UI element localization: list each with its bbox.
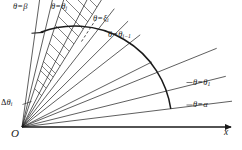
- label-theta-equals-xi-i: θ=ξi: [93, 14, 109, 24]
- label-theta-equals-theta-1: θ=θ1: [193, 78, 210, 88]
- label-delta-sub: i: [11, 101, 13, 107]
- label-xi-sub: i: [107, 17, 109, 23]
- label-beta-value: β: [23, 1, 27, 11]
- label-theta-equals-beta: θ=β: [13, 2, 28, 11]
- ray-theta-j-plus: [22, 0, 56, 127]
- label-theta-equals-theta-j: θ=θj: [51, 2, 67, 12]
- label-alpha-value: α: [203, 99, 208, 109]
- ray-theta-i: [22, 0, 90, 127]
- ray-theta-4: [22, 35, 140, 127]
- x-axis-label: x: [224, 128, 228, 138]
- ray-theta-i-minus-1: [22, 0, 102, 127]
- label-thetaj-sub: j: [65, 5, 67, 11]
- arc-chord-top: [32, 32, 44, 33]
- label-delta-theta-i: Δθi: [1, 98, 12, 108]
- label-tim1-sub: i−1: [122, 33, 130, 39]
- label-theta-equals-alpha: θ=α: [193, 100, 208, 109]
- polar-sector-figure: θ=β θ=θj θ=ξi θ=θi−1 θ=θ1 θ=α Δθi O x: [0, 0, 242, 150]
- label-t1-sub: 1: [207, 81, 210, 87]
- figure-drawing: [0, 0, 242, 150]
- origin-label: O: [11, 128, 19, 139]
- label-theta-equals-theta-i-minus-1: θ=θi−1: [108, 30, 131, 40]
- sector-arc: [41, 26, 171, 109]
